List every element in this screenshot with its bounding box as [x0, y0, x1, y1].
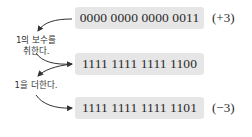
step-ones-complement-line1: 1의 보수를 — [6, 35, 66, 46]
value-label-positive: (+3) — [212, 10, 235, 26]
arrow-from-row2 — [38, 64, 72, 76]
step-add-one: 1을 더한다. — [6, 80, 66, 91]
arrow-from-row1 — [38, 19, 72, 31]
binary-row-negative: 1111 1111 1111 1101 — [75, 97, 204, 119]
value-label-negative: (−3) — [212, 100, 235, 116]
binary-row-positive: 0000 0000 0000 0011 — [75, 7, 204, 29]
step-add-one-line1: 1을 더한다. — [6, 80, 66, 91]
step-ones-complement-line2: 취한다. — [6, 46, 66, 57]
arrow-to-row3 — [36, 95, 72, 108]
binary-row-complement: 1111 1111 1111 1100 — [75, 53, 204, 75]
step-ones-complement: 1의 보수를 취한다. — [6, 35, 66, 57]
